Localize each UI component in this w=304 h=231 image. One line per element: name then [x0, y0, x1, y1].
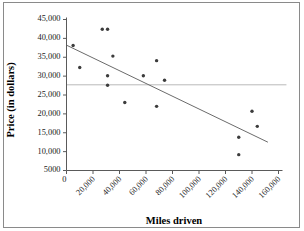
data-point	[237, 136, 240, 139]
data-point	[106, 28, 109, 31]
y-tick-label: 30,000	[37, 71, 60, 80]
x-tick-label: 100,000	[177, 175, 203, 201]
data-point	[106, 83, 109, 86]
data-point	[155, 59, 158, 62]
data-point	[111, 54, 114, 57]
scatter-plot-figure: 500010,00015,00020,00025,00030,00035,000…	[0, 0, 304, 231]
y-axis-ticks: 500010,00015,00020,00025,00030,00035,000…	[37, 14, 66, 174]
trend-line	[67, 45, 268, 142]
x-tick-label: 20,000	[74, 175, 97, 198]
plot-canvas: 500010,00015,00020,00025,00030,00035,000…	[0, 0, 304, 231]
x-tick-label: 160,000	[257, 175, 283, 201]
data-point	[123, 101, 126, 104]
y-tick-label: 45,000	[37, 14, 60, 23]
data-point	[78, 66, 81, 69]
axes	[67, 18, 283, 171]
data-point	[256, 125, 259, 128]
x-axis-ticks: 020,00040,00060,00080,000100,000120,0001…	[62, 171, 282, 201]
y-tick-label: 25,000	[37, 90, 60, 99]
y-tick-label: 5000	[44, 165, 61, 174]
x-tick-label: 80,000	[154, 175, 177, 198]
data-point	[71, 44, 74, 47]
data-point	[101, 28, 104, 31]
x-tick-label: 140,000	[230, 175, 256, 201]
y-tick-label: 20,000	[37, 109, 60, 118]
y-tick-label: 10,000	[37, 147, 60, 156]
y-tick-label: 15,000	[37, 128, 60, 137]
data-point	[106, 74, 109, 77]
x-tick-label: 120,000	[204, 175, 230, 201]
y-tick-label: 40,000	[37, 33, 60, 42]
x-axis-title: Miles driven	[146, 215, 202, 226]
data-point	[250, 110, 253, 113]
data-point	[155, 105, 158, 108]
data-point	[163, 79, 166, 82]
data-point	[237, 153, 240, 156]
y-axis-title: Price (in dollars)	[5, 62, 17, 138]
data-point	[142, 74, 145, 77]
x-tick-label: 60,000	[127, 175, 150, 198]
x-tick-label: 40,000	[101, 175, 124, 198]
x-tick-label: 0	[62, 175, 66, 184]
y-tick-label: 35,000	[37, 52, 60, 61]
data-points	[71, 28, 259, 157]
